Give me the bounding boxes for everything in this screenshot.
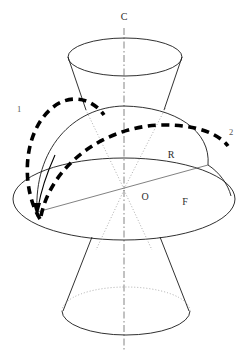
- lower-cone-bottom-rear-arc: [62, 287, 190, 311]
- label-curve-two: 2: [229, 127, 233, 137]
- figure-root: C 1 2 R O F: [0, 0, 247, 363]
- label-axis-top: C: [121, 11, 128, 22]
- geometric-diagram: C 1 2 R O F: [0, 0, 247, 363]
- dome-right-lower-edge: [208, 165, 231, 196]
- lower-cone-bottom-front-arc: [62, 311, 190, 335]
- lower-cone-right-slant: [160, 237, 189, 311]
- label-disk-region: F: [182, 196, 188, 207]
- label-curve-one: 1: [17, 104, 21, 114]
- label-center-point: O: [141, 191, 148, 202]
- upper-cone-top-ellipse: [68, 38, 182, 76]
- upper-cone-left-slant: [68, 57, 86, 110]
- upper-cone-right-slant: [164, 57, 182, 110]
- radial-dotted-right: [124, 107, 166, 189]
- label-dome-region: R: [168, 149, 175, 160]
- lower-cone-left-slant: [63, 237, 92, 311]
- radial-dotted-lower-left: [96, 190, 124, 250]
- dashed-curve-2: [41, 125, 228, 216]
